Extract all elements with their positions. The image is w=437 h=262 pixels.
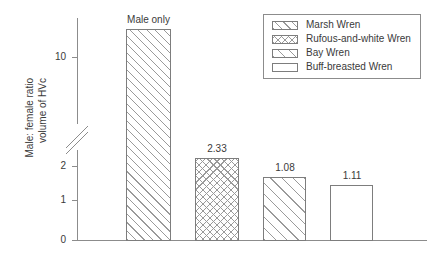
y-tick-mark-0	[72, 240, 77, 241]
legend-label-buff-breasted-wren: Buff-breasted Wren	[306, 62, 392, 72]
bar-value-bay-wren: 1.08	[255, 163, 315, 173]
bar-value-rufous-and-white-wren: 2.33	[187, 144, 247, 154]
legend-label-bay-wren: Bay Wren	[306, 48, 350, 58]
axis-break-icon	[62, 118, 96, 156]
bar-value-buff-breasted-wren: 1.11	[322, 171, 382, 181]
y-tick-mark-2	[72, 166, 77, 167]
bar-rufous-and-white-wren	[195, 158, 239, 241]
y-tick-mark-10	[72, 57, 77, 58]
y-tick-mark-1	[72, 200, 77, 201]
legend-swatch-empty-icon	[272, 63, 298, 72]
y-tick-label-1: 1	[38, 195, 66, 205]
bar-marsh-wren	[126, 29, 171, 241]
legend-label-marsh-wren: Marsh Wren	[306, 20, 360, 30]
bar-buff-breasted-wren	[330, 185, 373, 241]
legend-item-buff-breasted-wren: Buff-breasted Wren	[272, 62, 392, 72]
bar-bay-wren	[263, 177, 306, 241]
legend-swatch-diagonal-hatch-wide-icon	[272, 49, 298, 58]
y-axis-label-line2: volume of HVc	[38, 78, 48, 143]
legend-item-bay-wren: Bay Wren	[272, 48, 350, 58]
bar-chart: 10 2 1 0 Male: female ratio volume of HV…	[0, 0, 437, 262]
legend-label-rufous-and-white-wren: Rufous-and-white Wren	[306, 34, 411, 44]
y-axis-label: Male: female ratio volume of HVc	[12, 78, 46, 188]
legend-swatch-cross-hatch-icon	[272, 35, 298, 44]
legend-swatch-diagonal-hatch-icon	[272, 21, 298, 30]
annotation-male-only: Male only	[111, 15, 186, 25]
y-tick-label-10: 10	[38, 52, 66, 62]
y-axis-label-line1: Male: female ratio	[25, 78, 35, 157]
legend-item-rufous-and-white-wren: Rufous-and-white Wren	[272, 34, 411, 44]
y-tick-label-0: 0	[38, 235, 66, 245]
legend-item-marsh-wren: Marsh Wren	[272, 20, 360, 30]
